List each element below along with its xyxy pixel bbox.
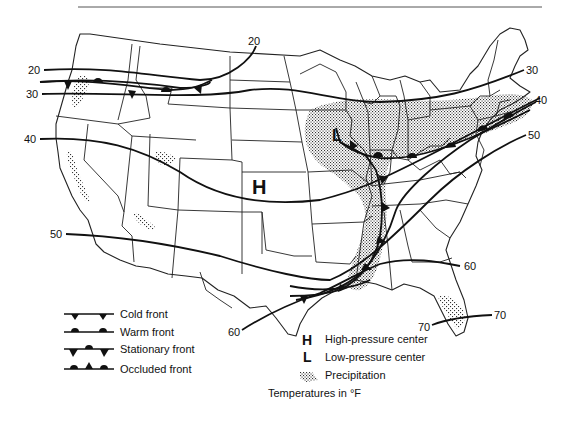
isotherm-label: 60 [228, 326, 240, 338]
state-border [312, 224, 356, 264]
stationary-front-icon [85, 345, 93, 349]
legend-low-label: Low-pressure center [325, 351, 426, 363]
warm-front-icon [99, 328, 107, 332]
state-border [122, 212, 134, 262]
cold-front-symbol [64, 81, 72, 90]
state-border [84, 124, 124, 212]
high-pressure-center: H [252, 176, 266, 198]
legend-fronts: Cold front Warm front Stationary front O… [64, 308, 195, 375]
isotherm-label: 20 [248, 35, 260, 47]
state-border [488, 40, 498, 96]
isotherm-label: 40 [24, 133, 36, 145]
cold-front-icon [71, 314, 79, 320]
isotherm-label: 30 [526, 64, 538, 76]
legend-precip-label: Precipitation [325, 369, 386, 381]
occluded-front-icon [100, 365, 108, 369]
state-border [118, 124, 132, 212]
cold-front-icon [99, 314, 107, 320]
legend-occluded-front-label: Occluded front [120, 363, 192, 375]
temperature-unit-note: Temperatures in °F [268, 387, 361, 399]
isotherm-50 [66, 135, 526, 280]
stationary-front-icon [100, 349, 109, 357]
isotherm-label: 20 [28, 64, 40, 76]
isotherm-label: 30 [26, 88, 38, 100]
legend-cold-front-label: Cold front [120, 308, 168, 320]
state-border [400, 210, 452, 262]
warm-front-symbol [93, 78, 103, 83]
legend-warm-front-label: Warm front [120, 326, 174, 338]
isotherm-label: 40 [535, 94, 547, 106]
precipitation-icon [300, 372, 318, 382]
legend-markers: H High-pressure center L Low-pressure ce… [300, 332, 428, 382]
state-border [232, 160, 242, 274]
isotherm-label: 70 [418, 321, 430, 333]
isotherms [40, 46, 540, 330]
state-border [242, 212, 312, 256]
state-border [172, 158, 180, 278]
state-border [132, 136, 196, 140]
legend-high-label: High-pressure center [325, 333, 428, 345]
state-border [200, 272, 232, 308]
us-map [56, 28, 530, 336]
occluded-front-icon [85, 362, 93, 369]
state-border [148, 134, 242, 212]
state-border [136, 46, 150, 118]
warm-front-icon [71, 328, 79, 332]
precip-arizona [133, 212, 156, 230]
state-border [168, 104, 232, 160]
state-border [372, 200, 468, 206]
low-pressure-center: L [332, 127, 342, 144]
precip-california [67, 150, 90, 202]
state-border [230, 80, 290, 82]
isotherm-label: 70 [494, 309, 506, 321]
legend-high-icon: H [302, 332, 312, 348]
isotherm-label: 50 [50, 228, 62, 240]
legend-stationary-front-label: Stationary front [120, 343, 195, 355]
isotherm-label: 60 [464, 260, 476, 272]
isotherm-30 [42, 70, 524, 102]
state-border [420, 210, 450, 238]
state-border [232, 140, 302, 142]
occluded-front-icon [70, 365, 78, 369]
legend-low-icon: L [303, 349, 312, 365]
weather-map: 20 20 30 30 40 40 50 50 60 60 70 70 [0, 0, 570, 423]
state-border [230, 108, 296, 110]
isotherm-label: 50 [528, 129, 540, 141]
state-border [56, 116, 150, 124]
state-border [312, 216, 372, 224]
stationary-front-icon [69, 349, 78, 357]
